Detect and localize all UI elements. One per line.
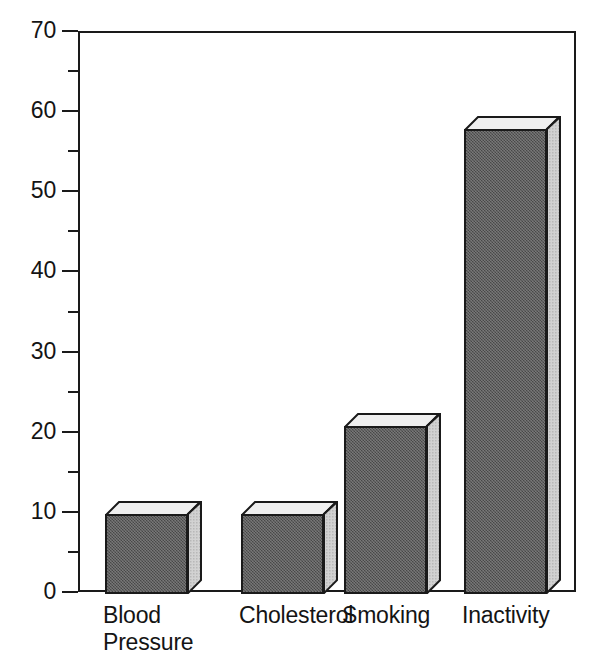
y-axis-tick-major: [62, 30, 78, 32]
bar-side-face: [187, 501, 202, 594]
y-axis-tick-major: [62, 351, 78, 353]
y-axis-tick-major: [62, 431, 78, 433]
bar: [464, 33, 560, 594]
y-axis-tick-minor: [68, 70, 78, 72]
y-axis-tick-label: 40: [0, 259, 56, 282]
y-axis-tick-minor: [68, 150, 78, 152]
y-axis-tick-major: [62, 511, 78, 513]
y-axis-tick-minor: [68, 391, 78, 393]
bar-side-face: [426, 413, 441, 594]
y-axis-tick-major: [62, 270, 78, 272]
bar: [344, 33, 440, 594]
y-axis-tick-label: 20: [0, 420, 56, 443]
y-axis-tick-major: [62, 110, 78, 112]
bar-side-face: [546, 116, 561, 594]
y-axis-tick-major: [62, 190, 78, 192]
x-axis-category-label: Smoking: [342, 602, 430, 629]
x-axis-category-label: Blood Pressure: [103, 602, 193, 656]
y-axis-tick-label: 50: [0, 179, 56, 202]
y-axis-tick-minor: [68, 551, 78, 553]
bar-front-face: [464, 129, 547, 594]
plot-area: [78, 31, 576, 592]
y-axis-tick-label: 0: [0, 580, 56, 603]
y-axis-tick-minor: [68, 471, 78, 473]
bar: [241, 33, 337, 594]
y-axis-tick-minor: [68, 230, 78, 232]
bar-front-face: [105, 514, 188, 594]
bar-side-face: [323, 501, 338, 594]
x-axis-category-label: Inactivity: [462, 602, 549, 629]
bar: [105, 33, 201, 594]
y-axis-tick-label: 10: [0, 500, 56, 523]
y-axis-tick-label: 70: [0, 19, 56, 42]
bar-front-face: [344, 426, 427, 594]
y-axis-tick-label: 60: [0, 99, 56, 122]
bar-front-face: [241, 514, 324, 594]
y-axis-tick-major: [62, 591, 78, 593]
bar-chart: 010203040506070 Blood PressureCholestero…: [0, 0, 607, 665]
x-axis-category-label: Cholesterol: [239, 602, 353, 629]
y-axis-tick-label: 30: [0, 340, 56, 363]
y-axis-tick-minor: [68, 311, 78, 313]
